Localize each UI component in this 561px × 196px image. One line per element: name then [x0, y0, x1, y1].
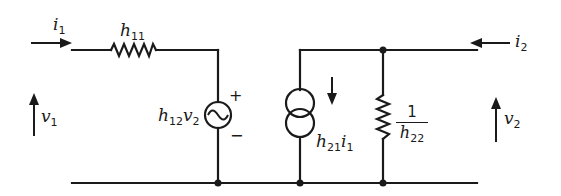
input-top-wire	[72, 50, 218, 102]
h-parameter-circuit-diagram: i1 v1 h11 h12v2 + − h21i1 1 h22 i2 v2	[0, 0, 561, 196]
h21i1-label: h21i1	[316, 133, 353, 153]
junction-dot	[380, 47, 387, 54]
ac-voltage-source-icon	[205, 102, 231, 183]
i2-label: i2	[515, 33, 527, 53]
i2-arrow-icon	[470, 38, 510, 48]
plus-polarity: +	[229, 88, 242, 104]
dependent-current-source-icon	[286, 50, 314, 183]
h12v2-label: h12v2	[158, 107, 200, 127]
i1-label: i1	[53, 16, 65, 36]
v2-arrow-icon	[491, 97, 501, 142]
current-direction-arrow-icon	[327, 77, 337, 105]
junction-dot	[215, 180, 222, 187]
junction-dot	[380, 180, 387, 187]
h22-resistor-icon	[377, 50, 389, 183]
minus-polarity: −	[230, 128, 243, 144]
h22-label: 1 h22	[396, 104, 428, 147]
junction-dot	[297, 180, 304, 187]
h11-resistor-icon	[111, 44, 156, 56]
circuit-schematic	[0, 0, 561, 196]
v1-label: v1	[41, 108, 58, 128]
v2-label: v2	[504, 110, 521, 130]
v1-arrow-icon	[29, 93, 39, 136]
i1-arrow-icon	[31, 38, 72, 48]
h11-label: h11	[120, 22, 145, 42]
